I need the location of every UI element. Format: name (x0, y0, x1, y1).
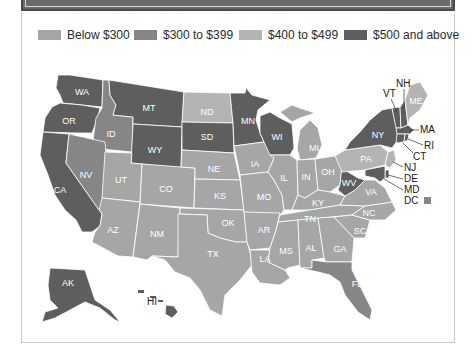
label-az: AZ (107, 225, 119, 235)
state-mi[interactable] (297, 120, 322, 160)
label-nm: NM (150, 229, 164, 239)
label-nj: NJ (404, 162, 416, 173)
label-wi: WI (272, 132, 283, 142)
label-hi: HI (147, 296, 157, 307)
label-wv: WV (342, 178, 357, 188)
label-fl: FL (352, 279, 363, 289)
label-sd: SD (201, 132, 214, 142)
label-vt: VT (383, 88, 396, 99)
label-ca: CA (54, 185, 67, 195)
label-mn: MN (241, 116, 255, 126)
state-hi[interactable] (165, 305, 178, 318)
state-ny[interactable] (345, 108, 398, 150)
label-tx: TX (207, 249, 219, 259)
label-ar: AR (258, 225, 271, 235)
label-tn: TN (304, 214, 316, 224)
label-ut: UT (115, 175, 127, 185)
leader-nj (393, 162, 403, 167)
label-va: VA (365, 187, 376, 197)
label-oh: OH (321, 167, 335, 177)
label-ct: CT (413, 151, 426, 162)
label-sc: SC (354, 226, 367, 236)
state-fl[interactable] (300, 260, 372, 320)
label-mt: MT (143, 103, 156, 113)
label-ma: MA (420, 124, 435, 135)
leader-md (384, 179, 403, 190)
dc-swatch[interactable] (424, 197, 431, 204)
label-nh: NH (396, 78, 410, 89)
state-ak[interactable] (42, 268, 120, 322)
label-il: IL (280, 173, 288, 183)
label-ms: MS (279, 246, 293, 256)
label-ny: NY (372, 130, 385, 140)
state-hi-islands (158, 300, 163, 302)
label-de: DE (404, 173, 418, 184)
label-id: ID (107, 129, 117, 139)
label-ak: AK (62, 278, 74, 288)
label-mi: MI (309, 143, 319, 153)
label-co: CO (159, 184, 173, 194)
label-dc: DC (404, 195, 418, 206)
label-md: MD (404, 184, 420, 195)
label-la: LA (259, 254, 270, 264)
label-ok: OK (221, 218, 234, 228)
state-hi-islands (138, 290, 144, 293)
label-pa: PA (360, 154, 371, 164)
label-me: ME (409, 96, 423, 106)
us-map: WA OR CA ID NV MT WY UT CO AZ NM ND SD N… (0, 0, 475, 357)
label-ia: IA (251, 159, 260, 169)
state-mi-upper[interactable] (280, 105, 315, 122)
state-de[interactable] (385, 170, 389, 178)
label-ga: GA (333, 244, 346, 254)
label-nd: ND (201, 107, 214, 117)
label-in: IN (302, 172, 311, 182)
leader-de (388, 175, 403, 179)
label-wa: WA (75, 87, 89, 97)
leader-ri (408, 139, 423, 145)
label-ky: KY (312, 198, 324, 208)
label-al: AL (305, 243, 316, 253)
state-ri[interactable] (404, 134, 409, 142)
label-mo: MO (257, 192, 272, 202)
label-ks: KS (214, 191, 226, 201)
label-or: OR (62, 116, 76, 126)
label-ne: NE (208, 164, 221, 174)
label-wy: WY (148, 145, 163, 155)
leader-ct (403, 143, 413, 153)
label-nc: NC (363, 208, 376, 218)
label-nv: NV (80, 170, 93, 180)
label-ri: RI (424, 140, 434, 151)
